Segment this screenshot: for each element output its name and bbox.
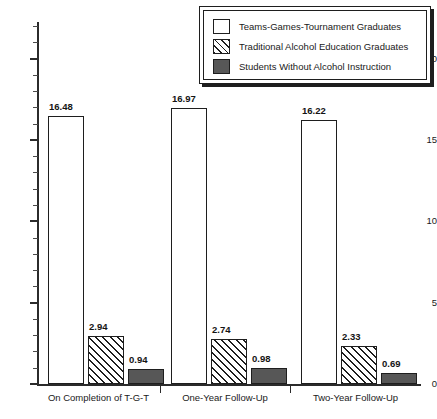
y-axis-tick-minor	[33, 26, 38, 27]
legend-item-no-instruction: Students Without Alcohol Instruction	[210, 56, 420, 76]
bar-value-label: 2.33	[342, 332, 361, 342]
legend-item-tgt-graduates: Teams-Games-Tournament Graduates	[210, 16, 420, 36]
chart-legend: Teams-Games-Tournament Graduates Traditi…	[199, 6, 431, 84]
y-axis-tick-minor	[33, 270, 38, 271]
bar-value-label: 2.74	[212, 325, 231, 335]
hatched-swatch-icon	[213, 39, 230, 54]
y-axis-tick-major	[30, 383, 38, 385]
y-axis-tick-minor	[33, 238, 38, 239]
y-axis-tick-label: 5	[411, 298, 437, 307]
y-axis-tick-minor	[33, 107, 38, 108]
bar-value-label: 16.97	[172, 94, 196, 104]
bar	[341, 346, 377, 384]
bar-value-label: 0.98	[252, 354, 271, 364]
bar-value-label: 16.22	[302, 106, 326, 116]
y-axis-tick-minor	[33, 189, 38, 190]
bar-value-label: 16.48	[49, 102, 73, 112]
y-axis-tick-minor	[33, 368, 38, 369]
bar-chart: 05101520 16.4816.9716.222.942.742.330.94…	[0, 0, 437, 419]
y-axis-tick-major	[30, 302, 38, 304]
y-axis-tick-minor	[33, 172, 38, 173]
white-swatch-icon	[213, 19, 230, 34]
bar	[301, 120, 337, 384]
chart-legend-inner: Teams-Games-Tournament Graduates Traditi…	[203, 10, 427, 80]
bar	[211, 339, 247, 384]
y-axis-tick-major	[30, 220, 38, 222]
y-axis-tick-label: 10	[411, 216, 437, 225]
legend-item-label: Teams-Games-Tournament Graduates	[239, 21, 401, 32]
y-axis-tick-major	[30, 139, 38, 141]
bar-value-label: 0.69	[382, 359, 401, 369]
dark-swatch-icon	[213, 59, 230, 74]
y-axis-line	[37, 22, 39, 385]
legend-item-traditional-graduates: Traditional Alcohol Education Graduates	[210, 36, 420, 56]
y-axis-tick-minor	[33, 42, 38, 43]
x-axis-line	[37, 384, 421, 386]
y-axis-tick-minor	[33, 75, 38, 76]
bar	[171, 108, 207, 384]
bar	[251, 368, 287, 384]
bar-value-label: 0.94	[129, 355, 148, 365]
y-axis-tick-minor	[33, 91, 38, 92]
y-axis-tick-minor	[33, 205, 38, 206]
bar	[381, 373, 417, 384]
bar	[48, 116, 84, 384]
x-axis-category-label-1: One-Year Follow-Up	[160, 392, 290, 404]
y-axis-tick-minor	[33, 124, 38, 125]
legend-item-label: Traditional Alcohol Education Graduates	[239, 41, 408, 52]
y-axis-tick-label: 15	[411, 135, 437, 144]
bar	[128, 369, 164, 384]
y-axis-tick-minor	[33, 254, 38, 255]
y-axis-tick-minor	[33, 156, 38, 157]
bar	[88, 336, 124, 384]
y-axis-tick-minor	[33, 319, 38, 320]
x-axis-category-label-2: Two-Year Follow-Up	[290, 392, 421, 404]
x-axis-category-label-0: On Completion of T-G-T	[37, 392, 160, 404]
y-axis-tick-minor	[33, 335, 38, 336]
bar-value-label: 2.94	[89, 322, 108, 332]
legend-item-label: Students Without Alcohol Instruction	[239, 61, 391, 72]
y-axis-tick-minor	[33, 286, 38, 287]
y-axis-tick-major	[30, 58, 38, 60]
y-axis-tick-minor	[33, 351, 38, 352]
